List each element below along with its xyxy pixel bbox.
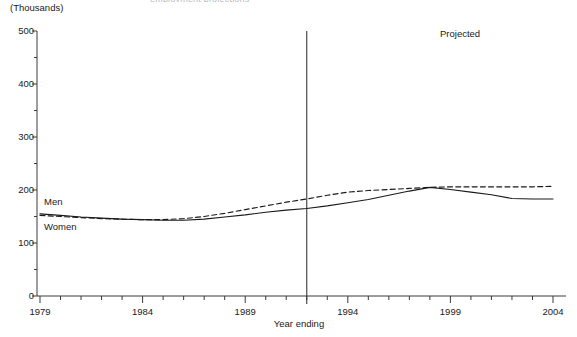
x-axis-title: Year ending [259, 318, 339, 329]
x-tick-label: 1979 [20, 306, 60, 317]
series-label-women: Women [44, 221, 77, 232]
x-tick-label: 2004 [533, 306, 573, 317]
x-tick-label: 1984 [123, 306, 163, 317]
y-axis-ticks [32, 31, 37, 296]
y-tick-label: 0 [0, 290, 34, 301]
y-tick-label: 200 [0, 184, 34, 195]
series-line-men [40, 187, 553, 220]
line-chart [0, 0, 577, 337]
y-tick-label: 500 [0, 25, 34, 36]
y-tick-label: 300 [0, 131, 34, 142]
projected-annotation: Projected [440, 28, 480, 39]
x-tick-label: 1994 [328, 306, 368, 317]
x-tick-label: 1989 [225, 306, 265, 317]
chart-series [40, 186, 553, 220]
series-label-men: Men [44, 196, 62, 207]
chart-axes [37, 31, 566, 296]
x-axis-ticks [40, 296, 553, 303]
y-tick-label: 400 [0, 78, 34, 89]
y-tick-label: 100 [0, 237, 34, 248]
series-line-women [40, 186, 553, 219]
x-tick-label: 1999 [430, 306, 470, 317]
